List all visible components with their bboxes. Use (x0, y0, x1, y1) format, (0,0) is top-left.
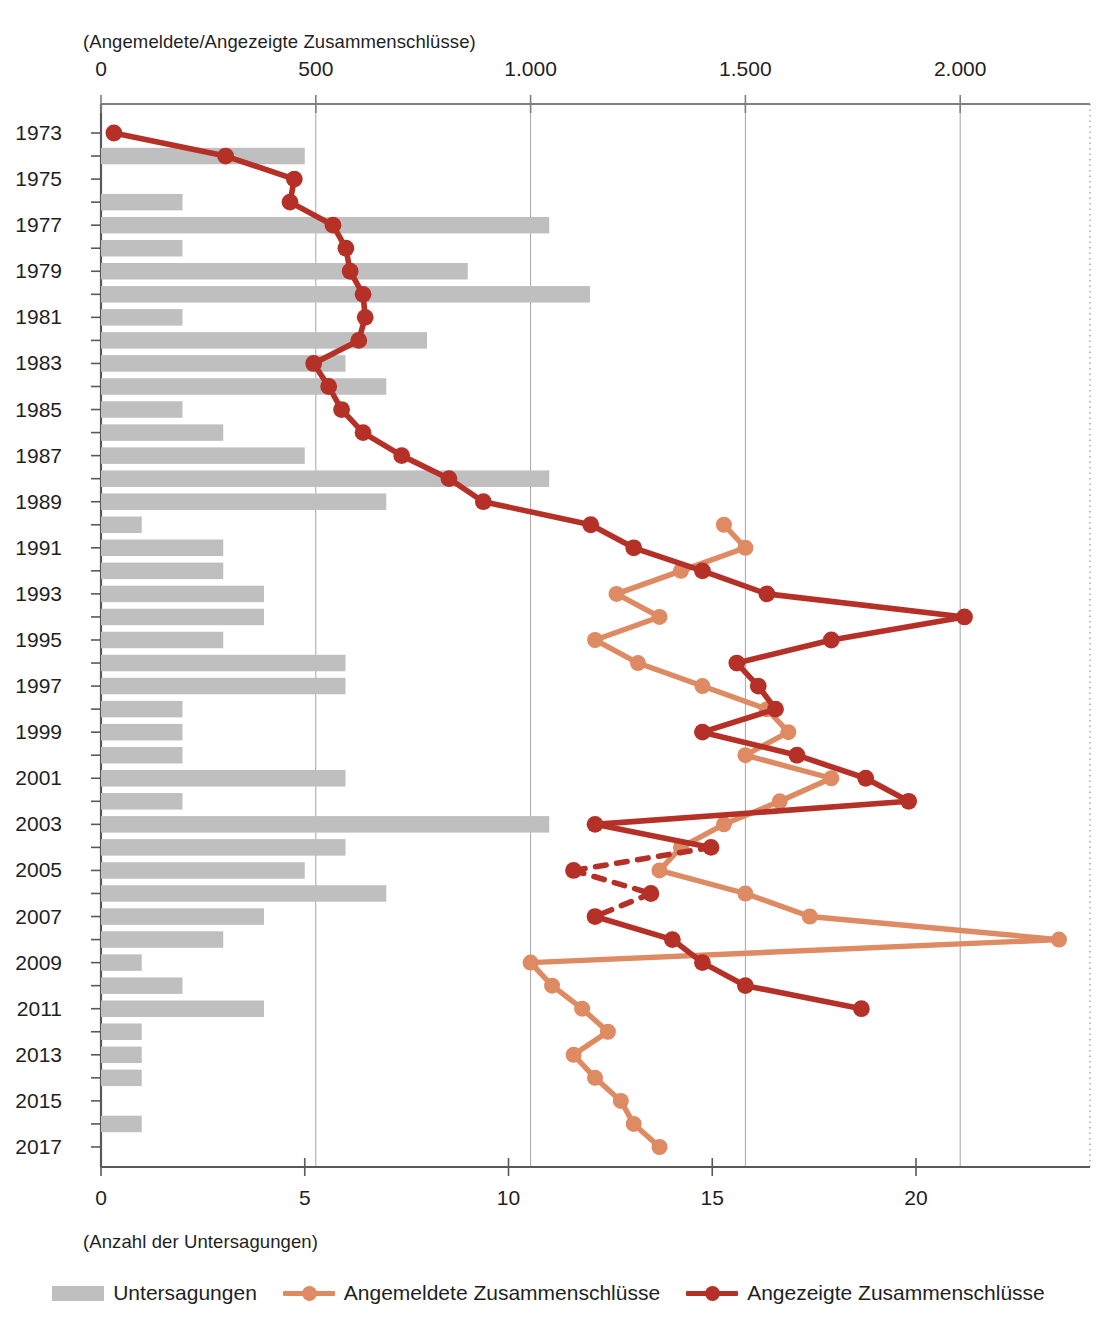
data-point-angezeigte-1973 (105, 125, 122, 142)
data-point-angezeigte-2006 (642, 885, 659, 902)
data-point-angezeigte-1983 (305, 355, 322, 372)
chart-legend: UntersagungenAngemeldete Zusammenschlüss… (0, 1281, 1097, 1305)
data-point-angezeigte-1976 (282, 194, 299, 211)
data-point-angezeigte-1974 (217, 148, 234, 165)
data-point-angezeigte-1978 (337, 240, 354, 257)
data-point-angezeigte-1998 (767, 701, 784, 718)
data-point-angezeigte-1995 (823, 632, 840, 649)
data-point-angezeigte-1979 (342, 263, 359, 280)
line-segment-1998-1999 (702, 709, 775, 732)
data-point-angezeigte-2007 (587, 908, 604, 925)
bar-untersagungen-2012 (101, 1024, 142, 1041)
data-point-angemeldete-2014 (587, 1070, 603, 1086)
legend-entry-0[interactable]: Untersagungen (52, 1281, 257, 1305)
data-point-angemeldete-1993 (609, 586, 625, 602)
data-point-angezeigte-2001 (857, 770, 874, 787)
bar-untersagungen-1979 (101, 263, 468, 280)
data-point-angemeldete-2009 (523, 955, 539, 971)
line-segment-1993-1994 (767, 594, 965, 617)
chart-root: (Angemeldete/Angezeigte Zusammenschlüsse… (0, 0, 1097, 1335)
line-segment-2010-2011 (745, 986, 861, 1009)
bar-untersagungen-1999 (101, 724, 183, 741)
data-point-angezeigte-2002 (900, 793, 917, 810)
line-segment-2005-2006 (574, 870, 651, 893)
bar-untersagungen-1980 (101, 286, 590, 303)
data-point-angemeldete-1991 (737, 540, 753, 556)
plot-area (0, 0, 1097, 1335)
data-point-angezeigte-1992 (694, 562, 711, 579)
line-segment-1995-1996 (737, 640, 832, 663)
data-point-angezeigte-2009 (694, 954, 711, 971)
bar-untersagungen-2010 (101, 977, 183, 994)
bar-untersagungen-2002 (101, 793, 183, 810)
legend-label: Untersagungen (113, 1281, 257, 1305)
legend-entry-1[interactable]: Angemeldete Zusammenschlüsse (283, 1281, 660, 1305)
line-segment-2004-2005 (574, 847, 711, 870)
data-point-angezeigte-1977 (325, 217, 342, 234)
legend-entry-2[interactable]: Angezeigte Zusammenschlüsse (686, 1281, 1045, 1305)
data-point-angemeldete-2006 (737, 885, 753, 901)
bar-untersagungen-1976 (101, 194, 183, 211)
data-point-angezeigte-1999 (694, 724, 711, 741)
line-segment-1992-1993 (702, 571, 766, 594)
bar-untersagungen-1991 (101, 540, 223, 557)
bar-untersagungen-2016 (101, 1116, 142, 1133)
data-point-angemeldete-2017 (651, 1139, 667, 1155)
data-point-angezeigte-1994 (956, 609, 973, 626)
data-point-angezeigte-2005 (565, 862, 582, 879)
legend-label: Angezeigte Zusammenschlüsse (747, 1281, 1045, 1305)
line-segment-2001-2002 (780, 778, 832, 801)
bar-untersagungen-1998 (101, 701, 183, 718)
data-point-angemeldete-2010 (544, 978, 560, 994)
data-point-angemeldete-2011 (574, 1001, 590, 1017)
legend-swatch-bar-icon (52, 1286, 104, 1301)
bar-untersagungen-2009 (101, 954, 142, 971)
data-point-angemeldete-1994 (651, 609, 667, 625)
data-point-angezeigte-1988 (441, 470, 458, 487)
bar-untersagungen-1992 (101, 563, 223, 580)
bar-untersagungen-1993 (101, 586, 264, 603)
line-segment-2007-2008 (810, 917, 1059, 940)
data-point-angezeigte-1980 (355, 286, 372, 303)
bar-untersagungen-1986 (101, 424, 223, 441)
data-point-angemeldete-1997 (694, 678, 710, 694)
data-point-angezeigte-1975 (286, 171, 303, 188)
data-point-angezeigte-2010 (737, 977, 754, 994)
line-segment-2006-2007 (595, 893, 651, 916)
data-point-angezeigte-1986 (355, 424, 372, 441)
bar-untersagungen-2013 (101, 1047, 142, 1064)
bar-untersagungen-1995 (101, 632, 223, 649)
line-segment-2007-2008 (595, 917, 672, 940)
data-point-angemeldete-2012 (600, 1024, 616, 1040)
bar-untersagungen-2004 (101, 839, 346, 856)
legend-swatch-line-icon (283, 1285, 335, 1301)
data-point-angezeigte-2011 (853, 1000, 870, 1017)
data-point-angemeldete-2013 (566, 1047, 582, 1063)
line-segment-2005-2006 (659, 870, 745, 893)
bar-untersagungen-2014 (101, 1070, 142, 1087)
bar-untersagungen-2001 (101, 770, 346, 787)
line-segment-1996-1997 (638, 663, 702, 686)
bar-untersagungen-2007 (101, 908, 264, 925)
bar-untersagungen-2005 (101, 862, 305, 879)
bar-untersagungen-1985 (101, 401, 183, 418)
data-point-angemeldete-2005 (651, 862, 667, 878)
data-point-angezeigte-1989 (475, 493, 492, 510)
data-point-angemeldete-2002 (772, 793, 788, 809)
line-segment-2006-2007 (745, 893, 809, 916)
data-point-angemeldete-2016 (626, 1116, 642, 1132)
legend-label: Angemeldete Zusammenschlüsse (344, 1281, 660, 1305)
bar-untersagungen-1997 (101, 678, 346, 695)
data-point-angemeldete-2007 (802, 909, 818, 925)
data-point-angezeigte-2004 (703, 839, 720, 856)
bar-untersagungen-1982 (101, 332, 427, 349)
data-point-angezeigte-1982 (350, 332, 367, 349)
data-point-angemeldete-2015 (613, 1093, 629, 1109)
bar-untersagungen-2000 (101, 747, 183, 764)
line-segment-1992-1993 (617, 571, 681, 594)
bar-untersagungen-2011 (101, 1000, 264, 1017)
legend-swatch-line-icon (686, 1285, 738, 1301)
data-point-angezeigte-1991 (625, 539, 642, 556)
data-point-angezeigte-2003 (587, 816, 604, 833)
bar-untersagungen-1996 (101, 655, 346, 672)
